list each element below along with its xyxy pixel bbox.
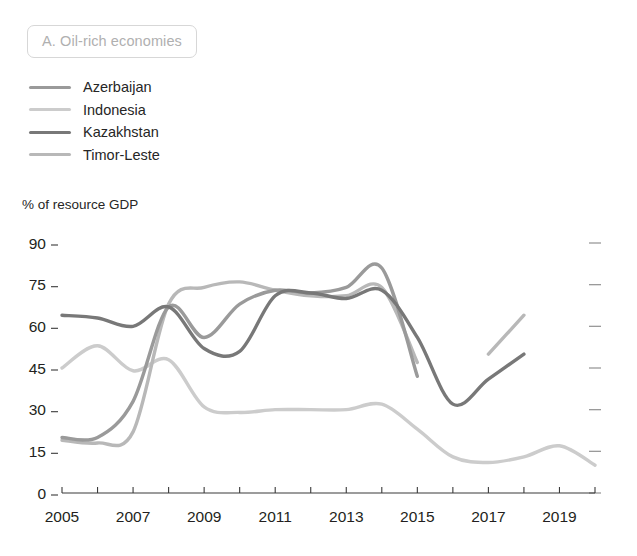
series-line-timor-leste: [488, 315, 524, 354]
series-line-timor-leste: [62, 282, 417, 446]
y-tick-label: 0: [37, 485, 46, 502]
x-tick-label: 2005: [45, 508, 79, 525]
x-axis: 20052007200920112013201520172019: [45, 487, 595, 525]
x-tick-label: 2015: [400, 508, 434, 525]
y-tick-label: 45: [29, 360, 46, 377]
x-tick-label: 2007: [116, 508, 150, 525]
chart-panel: A. Oil-rich economies Azerbaijan Indones…: [0, 0, 637, 556]
chart-plot-area: 0153045607590 20052007200920112013201520…: [0, 0, 637, 556]
x-tick-label: 2019: [542, 508, 576, 525]
y-tick-label: 60: [29, 318, 47, 335]
right-axis-ticks: [589, 243, 601, 493]
y-axis-ticks: 0153045607590: [29, 235, 58, 502]
x-tick-label: 2009: [187, 508, 221, 525]
series-line-kazakhstan: [62, 289, 524, 406]
x-tick-label: 2011: [259, 508, 292, 525]
y-tick-label: 30: [29, 401, 47, 418]
y-tick-label: 90: [29, 235, 47, 252]
y-tick-label: 15: [29, 443, 46, 460]
y-tick-label: 75: [29, 276, 46, 293]
x-tick-label: 2017: [471, 508, 505, 525]
series-lines: [62, 264, 595, 465]
x-tick-label: 2013: [329, 508, 363, 525]
